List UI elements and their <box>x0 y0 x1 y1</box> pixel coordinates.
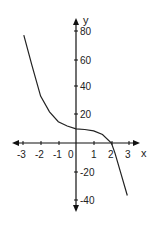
y-axis-label: y <box>83 14 89 26</box>
y-tick-label: 40 <box>80 81 92 92</box>
x-tick-label: -2 <box>35 149 44 160</box>
y-tick-label: 80 <box>80 26 92 37</box>
y-axis-down-arrow-icon <box>73 205 79 212</box>
x-axis-left-arrow-icon <box>12 140 19 146</box>
x-tick-label: -3 <box>17 149 26 160</box>
y-tick-label: -40 <box>80 195 95 206</box>
y-tick-label: 20 <box>80 109 92 120</box>
y-axis-up-arrow-icon <box>73 18 79 25</box>
x-tick-label: 1 <box>91 149 97 160</box>
x-axis-right-arrow-icon <box>133 140 140 146</box>
x-axis-label: x <box>141 147 147 159</box>
function-graph: -3 -2 -1 0 1 2 3 x 80 60 40 20 -20 -40 y <box>0 0 158 225</box>
x-tick-label: 0 <box>68 149 74 160</box>
x-tick-label: -1 <box>53 149 62 160</box>
x-tick-label: 3 <box>125 149 131 160</box>
y-tick-label: -20 <box>80 167 95 178</box>
x-tick-label: 2 <box>108 149 114 160</box>
y-tick-label: 60 <box>80 55 92 66</box>
